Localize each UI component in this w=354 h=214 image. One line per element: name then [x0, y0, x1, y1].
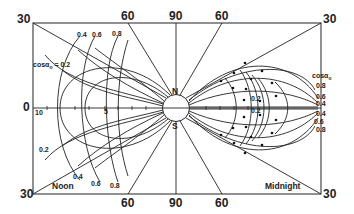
- left-bottom-label-0.6: 0.6: [91, 180, 101, 187]
- left-bottom-label-0.2: 0.2: [39, 146, 49, 153]
- bottom-90-label: 90: [169, 196, 182, 210]
- left-top-label-0.6: 0.6: [92, 31, 102, 38]
- right-inner-label-0.2-bottom: 0.2: [251, 107, 261, 114]
- left-bottom-label-0.8: 0.8: [110, 182, 120, 189]
- north-pole-label: N: [172, 86, 178, 96]
- left-bottom-label-0.4: 0.4: [73, 173, 83, 180]
- left-zero-label: 0: [23, 100, 30, 114]
- axis-tick-5-label: 5: [104, 108, 108, 115]
- right-label-0.8-top: 0.8: [316, 82, 326, 89]
- right-label-0.6-top: 0.6: [316, 93, 326, 100]
- midnight-label: Midnight: [265, 181, 300, 191]
- south-pole-label: S: [172, 121, 178, 131]
- bottom-left-30-label: 30: [20, 187, 33, 201]
- right-cos-alpha-legend: cosαo: [312, 72, 331, 81]
- right-label-0.8-bottom: 0.8: [316, 126, 326, 133]
- top-60-left-label: 60: [121, 9, 134, 23]
- top-90-label: 90: [169, 9, 182, 23]
- left-cos-alpha-legend: cosαo = 0.2: [33, 61, 70, 70]
- bottom-right-30-label: 30: [323, 187, 336, 201]
- left-top-label-0.8: 0.8: [112, 30, 122, 37]
- bottom-60-left-label: 60: [121, 196, 134, 210]
- right-label-0.4-bottom: 0.4: [316, 110, 326, 117]
- noon-label: Noon: [52, 181, 74, 191]
- right-label-0.4-top: 0.4: [316, 100, 326, 107]
- left-top-label-0.4: 0.4: [77, 31, 87, 38]
- bottom-60-right-label: 60: [215, 196, 228, 210]
- right-label-0.6-bottom: 0.6: [314, 118, 324, 125]
- axis-tick-10-label: 10: [35, 109, 43, 116]
- right-inner-label-0.2-top: 0.2: [251, 95, 261, 102]
- top-left-30-label: 30: [17, 12, 30, 26]
- top-60-right-label: 60: [215, 9, 228, 23]
- top-right-30-label: 30: [323, 12, 336, 26]
